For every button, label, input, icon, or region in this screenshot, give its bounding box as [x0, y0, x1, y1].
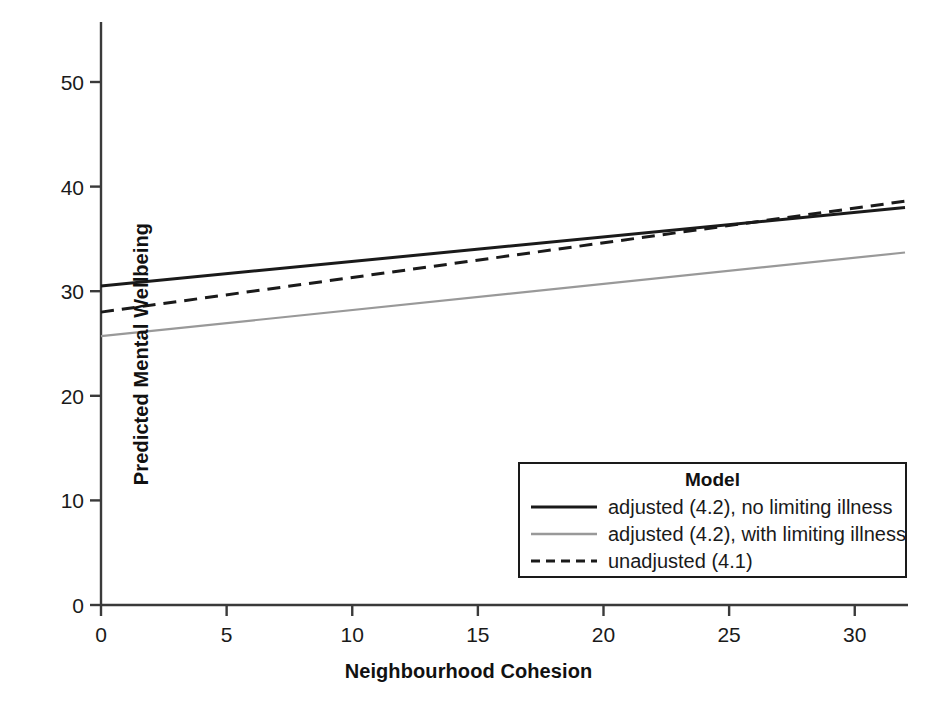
legend-title: Model — [520, 470, 905, 491]
legend-item-label: adjusted (4.2), no limiting illness — [608, 497, 893, 517]
y-tick-label: 40 — [40, 176, 84, 197]
x-tick-label: 15 — [466, 624, 489, 645]
series-line-0 — [101, 208, 905, 286]
y-tick-label: 30 — [40, 281, 84, 302]
series-line-2 — [101, 201, 905, 312]
x-tick-label: 20 — [592, 624, 615, 645]
x-tick-label: 10 — [341, 624, 364, 645]
y-axis-title: Predicted Mental Wellbeing — [130, 223, 153, 485]
legend-item-label: adjusted (4.2), with limiting illness — [608, 524, 906, 544]
legend-item-label: unadjusted (4.1) — [608, 551, 753, 571]
x-axis-title: Neighbourhood Cohesion — [345, 660, 593, 683]
legend-item: adjusted (4.2), no limiting illness — [520, 494, 905, 521]
legend-line-swatch-dashed — [529, 552, 599, 570]
series-line-1 — [101, 252, 905, 336]
legend-item: unadjusted (4.1) — [520, 548, 905, 575]
y-tick-label: 50 — [40, 72, 84, 93]
legend-entries: adjusted (4.2), no limiting illnessadjus… — [520, 494, 905, 575]
x-tick-label: 5 — [221, 624, 233, 645]
y-tick-label: 10 — [40, 490, 84, 511]
x-tick-label: 30 — [843, 624, 866, 645]
legend-line-swatch-solid — [529, 525, 599, 543]
x-tick-label: 25 — [717, 624, 740, 645]
legend-line-swatch-solid — [529, 498, 599, 516]
y-tick-label: 20 — [40, 385, 84, 406]
x-tick-label: 0 — [95, 624, 107, 645]
y-tick-label: 0 — [40, 595, 84, 616]
chart-figure: 01020304050 051015202530 Predicted Menta… — [0, 0, 937, 708]
legend-item: adjusted (4.2), with limiting illness — [520, 521, 905, 548]
legend-box: Model adjusted (4.2), no limiting illnes… — [518, 462, 907, 578]
